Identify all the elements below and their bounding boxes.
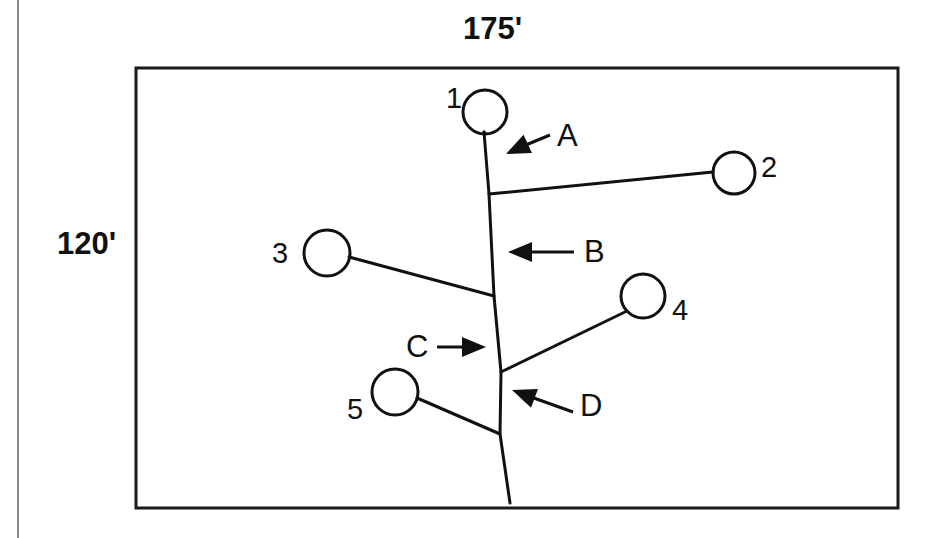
branch-to-crown-4 <box>501 311 627 372</box>
callout-b-arrow-icon <box>508 242 532 262</box>
main-stem-line <box>484 132 510 503</box>
branch-to-crown-2 <box>489 172 713 194</box>
crown-5 <box>372 369 418 415</box>
callout-d-label: D <box>580 388 602 423</box>
crown-1 <box>463 90 507 134</box>
crown-2-label: 2 <box>761 151 777 183</box>
callout-d-arrow-icon <box>512 389 538 408</box>
callout-d-leader-line <box>531 397 573 412</box>
diagram-page: 175' 120' 12345 ABCD <box>0 0 939 538</box>
plot-boundary-rectangle <box>136 68 898 508</box>
crown-3 <box>304 230 350 276</box>
callout-c-arrow-icon <box>462 337 486 357</box>
callout-a-label: A <box>557 118 578 153</box>
branches-group <box>349 132 713 434</box>
crown-4-label: 4 <box>672 294 688 326</box>
callout-c-label: C <box>406 329 428 364</box>
callout-b-label: B <box>584 234 605 269</box>
crown-2 <box>713 152 755 194</box>
branch-to-crown-5 <box>417 398 500 434</box>
tree-plan-diagram: 12345 ABCD <box>0 0 939 538</box>
callouts-group: ABCD <box>406 118 605 423</box>
crown-3-label: 3 <box>272 237 288 269</box>
crown-1-label: 1 <box>446 82 462 114</box>
crown-4 <box>621 274 665 318</box>
crown-5-label: 5 <box>347 393 363 425</box>
branch-to-crown-3 <box>349 257 494 296</box>
